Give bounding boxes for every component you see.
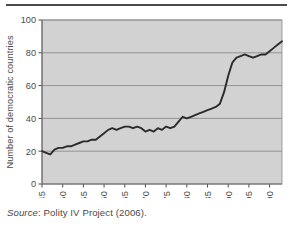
- plot-background: [42, 20, 282, 184]
- x-tick-label: 1985: [203, 191, 213, 198]
- x-tick-label: 1995: [244, 191, 254, 198]
- x-tick-label: 1990: [224, 191, 234, 198]
- x-tick-label: 1980: [182, 191, 192, 198]
- y-tick-label: 100: [21, 15, 36, 25]
- source-label: Source: [7, 207, 38, 218]
- x-tick-label: 1955: [79, 191, 89, 198]
- top-divider-rule: [6, 4, 287, 6]
- source-value: : Polity IV Project (2006).: [38, 207, 147, 218]
- y-tick-label: 0: [31, 179, 36, 189]
- y-tick-label: 60: [26, 81, 36, 91]
- source-caption: Source: Polity IV Project (2006).: [7, 207, 147, 218]
- line-chart-svg: 020406080100 194519501955196019651970197…: [0, 8, 293, 198]
- x-tick-label: 1965: [120, 191, 130, 198]
- x-axis-ticks-group: 1945195019551960196519701975198019851990…: [37, 184, 275, 198]
- x-tick-label: 1945: [37, 191, 47, 198]
- y-tick-label: 80: [26, 48, 36, 58]
- y-tick-label: 20: [26, 147, 36, 157]
- chart-plot-area: 020406080100 194519501955196019651970197…: [0, 8, 293, 198]
- figure-democratic-countries: 020406080100 194519501955196019651970197…: [0, 0, 293, 227]
- y-tick-label: 40: [26, 114, 36, 124]
- x-tick-label: 1970: [141, 191, 151, 198]
- y-axis-ticks-group: 020406080100: [21, 15, 42, 189]
- x-tick-label: 2000: [265, 191, 275, 198]
- x-tick-label: 1950: [58, 191, 68, 198]
- x-tick-label: 1975: [162, 191, 172, 198]
- y-axis-label: Number of democratic countries: [5, 35, 15, 169]
- x-tick-label: 1960: [99, 191, 109, 198]
